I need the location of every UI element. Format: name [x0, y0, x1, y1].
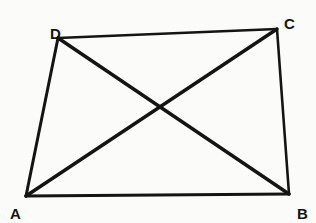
geometry-figure: A B C D — [0, 0, 316, 223]
diagonal-AC — [26, 29, 277, 196]
side-CD — [58, 29, 277, 38]
vertex-label-d: D — [50, 26, 61, 41]
vertex-label-b: B — [297, 206, 308, 221]
side-BC — [277, 29, 289, 194]
side-AB — [26, 194, 289, 196]
side-DA — [26, 38, 58, 196]
quadrilateral-diagram — [0, 0, 316, 223]
diagonal-DB — [58, 38, 289, 194]
vertex-label-c: C — [284, 16, 295, 31]
vertex-label-a: A — [10, 206, 21, 221]
